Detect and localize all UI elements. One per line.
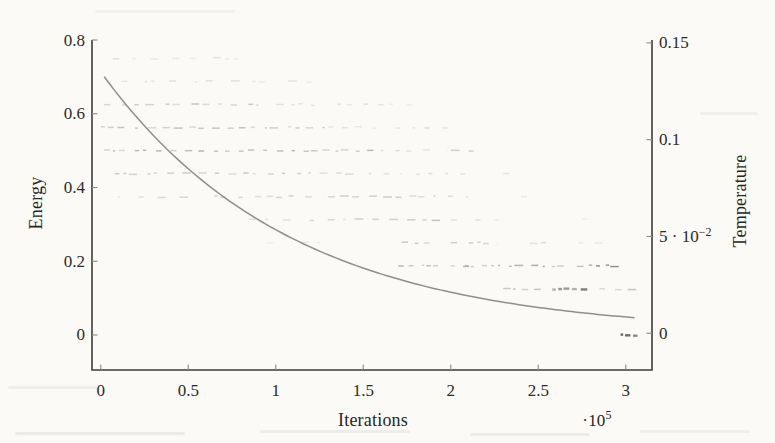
temperature-tick-label: 0.1 [659,130,680,149]
x-multiplier-exponent: 5 [606,408,612,422]
energy-tick-label: 0 [77,325,86,344]
x-tick-label: 1 [272,381,281,400]
x-tick-label: 3 [622,381,631,400]
energy-tick-label: 0.2 [64,252,85,271]
temperature-axis-label: Temperature [730,155,751,248]
temperature-tick-label: 5 · 10−2 [659,225,711,246]
annealing-figure: 00.511.522.5300.20.40.60.805 · 10−20.10.… [0,0,775,443]
x-tick-label: 1.5 [353,381,374,400]
temperature-tick-label: 0.15 [659,33,689,52]
energy-tick-label: 0.6 [64,104,85,123]
energy-tick-label: 0.4 [64,178,86,197]
x-tick-label: 2.5 [528,381,549,400]
energy-tick-label: 0.8 [64,31,85,50]
x-tick-label: 0.5 [178,381,199,400]
chart-svg: 00.511.522.5300.20.40.60.805 · 10−20.10.… [0,0,775,443]
x-tick-label: 0 [97,381,106,400]
temperature-tick-label: 0 [659,324,668,343]
x-axis-multiplier: ·105 [582,411,611,431]
x-multiplier-base: ·10 [582,411,605,430]
axis-frame [92,40,652,370]
energy-axis-label: Energy [26,177,47,230]
iterations-axis-label: Iterations [338,410,408,431]
chart-plot-area: 00.511.522.5300.20.40.60.805 · 10−20.10.… [0,0,775,443]
x-tick-label: 2 [447,381,456,400]
